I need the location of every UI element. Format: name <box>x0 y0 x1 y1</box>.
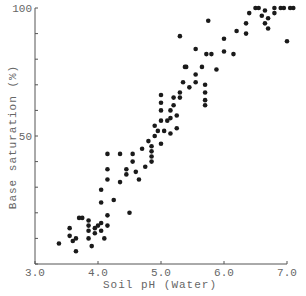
data-point <box>105 223 110 228</box>
data-point <box>149 154 154 159</box>
data-point <box>256 6 261 11</box>
data-point <box>156 129 161 134</box>
data-point <box>134 170 139 175</box>
data-point <box>149 159 154 164</box>
data-point <box>89 244 94 249</box>
data-point <box>127 211 132 216</box>
data-point <box>99 228 104 233</box>
data-point <box>105 213 110 218</box>
data-point <box>263 8 268 13</box>
data-point <box>206 19 211 24</box>
data-point <box>118 180 123 185</box>
data-point <box>74 249 79 254</box>
data-point <box>99 221 104 226</box>
data-point <box>99 187 104 192</box>
data-point <box>285 39 290 44</box>
data-point <box>168 131 173 136</box>
data-point <box>159 118 164 123</box>
data-point <box>178 90 183 95</box>
x-tick-label: 6.0 <box>214 267 234 279</box>
data-point <box>118 152 123 157</box>
data-point <box>174 126 179 131</box>
data-point <box>130 159 135 164</box>
data-point <box>130 152 135 157</box>
data-point <box>204 52 209 57</box>
data-point <box>231 52 236 57</box>
data-point <box>260 13 265 18</box>
data-point <box>193 47 198 52</box>
data-point <box>67 234 72 239</box>
data-points <box>57 6 296 254</box>
data-point <box>140 147 145 152</box>
y-tick-label: 100 <box>12 3 32 15</box>
data-point <box>74 236 79 241</box>
data-point <box>272 6 277 11</box>
data-point <box>247 11 252 16</box>
data-point <box>105 152 110 157</box>
data-point <box>124 172 129 177</box>
data-point <box>244 21 249 26</box>
x-tick-label: 4.0 <box>88 267 108 279</box>
data-point <box>159 141 164 146</box>
y-tick-label: 50 <box>19 131 32 143</box>
data-point <box>193 72 198 77</box>
data-point <box>203 83 208 88</box>
data-point <box>181 80 186 85</box>
data-point <box>86 228 91 233</box>
data-point <box>222 36 227 41</box>
data-point <box>203 90 208 95</box>
data-point <box>178 95 183 100</box>
data-point <box>168 108 173 113</box>
data-point <box>282 6 287 11</box>
y-axis-label: Base saturation (%) <box>7 65 19 209</box>
data-point <box>272 11 277 16</box>
data-point <box>187 85 192 90</box>
data-point <box>80 216 85 221</box>
data-point <box>159 108 164 113</box>
data-point <box>209 52 214 57</box>
data-point <box>152 134 157 139</box>
data-point <box>159 100 164 105</box>
data-point <box>93 231 98 236</box>
data-point <box>137 177 142 182</box>
data-point <box>244 31 249 36</box>
data-point <box>143 164 148 169</box>
data-point <box>214 67 219 72</box>
data-point <box>291 6 296 11</box>
data-point <box>149 149 154 154</box>
data-point <box>266 26 271 31</box>
data-point <box>200 65 205 70</box>
data-point <box>99 200 104 205</box>
data-point <box>67 226 72 231</box>
scatter-chart: 3.04.05.06.07.050100 Soil pH (Water) Bas… <box>0 0 306 296</box>
x-axis-label: Soil pH (Water) <box>103 279 217 291</box>
data-point <box>174 113 179 118</box>
x-tick-label: 5.0 <box>151 267 171 279</box>
data-point <box>86 223 91 228</box>
data-point <box>105 177 110 182</box>
data-point <box>86 218 91 223</box>
data-point <box>111 198 116 203</box>
data-point <box>203 98 208 103</box>
data-point <box>159 93 164 98</box>
data-point <box>149 144 154 149</box>
data-point <box>162 129 167 134</box>
data-point <box>152 123 157 128</box>
axes <box>35 8 287 264</box>
data-point <box>57 241 62 246</box>
data-point <box>184 65 189 70</box>
data-point <box>86 236 91 241</box>
x-tick-label: 3.0 <box>25 267 45 279</box>
data-point <box>171 103 176 108</box>
data-point <box>193 80 198 85</box>
data-point <box>178 34 183 39</box>
data-point <box>168 116 173 121</box>
axis-ticks: 3.04.05.06.07.050100 <box>12 3 297 279</box>
data-point <box>171 95 176 100</box>
data-point <box>203 103 208 108</box>
x-tick-label: 7.0 <box>277 267 297 279</box>
data-point <box>263 21 268 26</box>
data-point <box>222 49 227 54</box>
data-point <box>102 236 107 241</box>
data-point <box>105 167 110 172</box>
